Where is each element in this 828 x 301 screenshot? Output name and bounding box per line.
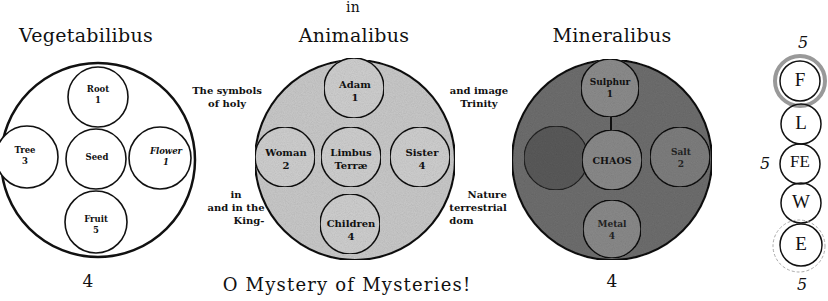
side-text-line: and image: [450, 84, 508, 97]
side-text-left-top: The symbols of holy: [192, 84, 262, 110]
side-text-line: in: [207, 188, 264, 201]
anim-left-number: 2: [265, 159, 306, 172]
min-bottom-number-4: 4: [607, 271, 618, 291]
element-letter-w: W: [792, 191, 810, 213]
veg-right-number: 1: [150, 157, 182, 168]
element-letter-l: L: [795, 112, 807, 134]
anim-left-label: Woman 2: [265, 146, 306, 172]
element-letter-fe: FE: [790, 152, 810, 172]
min-left-circle: [524, 126, 588, 190]
anim-center-subtext: Terræ: [330, 159, 371, 172]
anim-top-text: Adam: [339, 78, 371, 91]
veg-center-text: Seed: [86, 152, 109, 163]
anim-top-number: 1: [339, 91, 371, 104]
veg-bottom-number-4: 4: [83, 271, 94, 291]
min-top-text: Sulphur: [590, 76, 631, 88]
min-right-text: Salt: [671, 146, 691, 158]
elements-side-number: 5: [760, 154, 770, 173]
veg-bottom-number: 5: [84, 225, 108, 236]
element-letter-f: F: [795, 69, 806, 91]
veg-top-number: 1: [87, 95, 109, 106]
anim-bottom-text: Children: [327, 217, 376, 230]
veg-right-text: Flower: [150, 146, 182, 157]
veg-bottom-text: Fruit: [84, 214, 108, 225]
side-text-line: Trinity: [450, 97, 508, 110]
veg-left-text: Tree: [14, 145, 35, 156]
caption: O Mystery of Mysteries!: [223, 274, 472, 295]
side-text-line: and in the: [207, 201, 264, 214]
min-bottom-label: Metal 4: [597, 218, 626, 242]
elements-bottom-number: 5: [797, 275, 807, 294]
anim-right-label: Sister 4: [406, 146, 439, 172]
anim-top-label: Adam 1: [339, 78, 371, 104]
title-animalibus: Animalibus: [299, 24, 410, 46]
veg-right-label: Flower 1: [150, 146, 182, 168]
anim-bottom-label: Children 4: [327, 217, 376, 243]
anim-right-number: 4: [406, 159, 439, 172]
veg-center-label: Seed: [86, 152, 109, 163]
side-text-left-bottom: in and in the King-: [207, 188, 264, 227]
veg-left-number: 3: [14, 156, 35, 167]
element-letter-e: E: [795, 233, 807, 255]
min-top-label: Sulphur 1: [590, 76, 631, 100]
anim-center-text: Limbus: [330, 146, 371, 159]
title-mineralibus: Mineralibus: [552, 24, 671, 46]
min-bottom-number: 4: [597, 230, 626, 242]
side-text-line: Nature: [449, 188, 506, 201]
anim-center-label: Limbus Terræ: [330, 146, 371, 172]
min-top-number: 1: [590, 88, 631, 100]
side-text-line: of holy: [192, 97, 262, 110]
min-center-label: CHAOS: [592, 154, 631, 167]
side-text-line: dom: [449, 214, 506, 227]
elements-top-number: 5: [798, 33, 808, 52]
veg-top-text: Root: [87, 84, 109, 95]
min-right-label: Salt 2: [671, 146, 691, 170]
veg-left-label: Tree 3: [14, 145, 35, 167]
anim-right-text: Sister: [406, 146, 439, 159]
top-word-in: in: [346, 0, 360, 15]
side-text-line: King-: [207, 214, 264, 227]
side-text-right-top: and image Trinity: [450, 84, 508, 110]
side-text-line: terrestrial: [449, 201, 506, 214]
veg-top-label: Root 1: [87, 84, 109, 106]
min-bottom-text: Metal: [597, 218, 626, 230]
veg-bottom-label: Fruit 5: [84, 214, 108, 236]
anim-bottom-number: 4: [327, 230, 376, 243]
title-vegetabilibus: Vegetabilibus: [19, 24, 153, 46]
side-text-right-bottom: Nature terrestrial dom: [449, 188, 506, 227]
anim-left-text: Woman: [265, 146, 306, 159]
min-center-text: CHAOS: [592, 154, 631, 167]
min-right-number: 2: [671, 158, 691, 170]
side-text-line: The symbols: [192, 84, 262, 97]
